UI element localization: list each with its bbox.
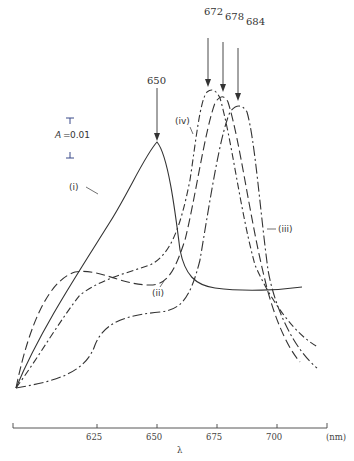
absorbance-scale-bar: A = 0.01 bbox=[54, 118, 90, 158]
curve-ii bbox=[16, 97, 300, 388]
peak-label-678: 678 bbox=[225, 11, 244, 22]
peak-label-684: 684 bbox=[246, 16, 265, 27]
curve-label-iv: (iv) bbox=[175, 116, 190, 126]
x-tick-700: 700 bbox=[266, 432, 282, 442]
arrow-down-icon bbox=[220, 84, 226, 92]
x-tick-675: 675 bbox=[206, 432, 222, 442]
curve-iv bbox=[16, 90, 318, 388]
spectrum-chart: A = 0.01 650 672 678 684 (i) (ii) (iii) … bbox=[0, 0, 354, 461]
curve-labels: (i) (ii) (iii) (iv) bbox=[69, 116, 293, 298]
peak-annotations: 650 672 678 684 bbox=[147, 6, 265, 141]
peak-label-672: 672 bbox=[204, 6, 223, 17]
x-axis: 625 650 675 700 (nm) λ bbox=[13, 423, 346, 455]
x-axis-label: λ bbox=[177, 445, 183, 455]
x-tick-650: 650 bbox=[146, 432, 162, 442]
curve-i bbox=[16, 142, 302, 388]
curve-label-i: (i) bbox=[69, 182, 79, 192]
arrow-down-icon bbox=[205, 79, 211, 87]
arrow-down-icon bbox=[154, 133, 160, 141]
scale-bar-symbol: A bbox=[54, 130, 61, 140]
peak-label-650: 650 bbox=[147, 75, 166, 86]
arrow-down-icon bbox=[235, 93, 241, 101]
scale-bar-value: 0.01 bbox=[70, 130, 90, 140]
curve-iii bbox=[16, 106, 317, 388]
x-tick-625: 625 bbox=[86, 432, 102, 442]
x-axis-unit: (nm) bbox=[326, 432, 346, 442]
curve-label-ii: (ii) bbox=[152, 288, 164, 298]
curve-label-iii: (iii) bbox=[278, 224, 293, 234]
